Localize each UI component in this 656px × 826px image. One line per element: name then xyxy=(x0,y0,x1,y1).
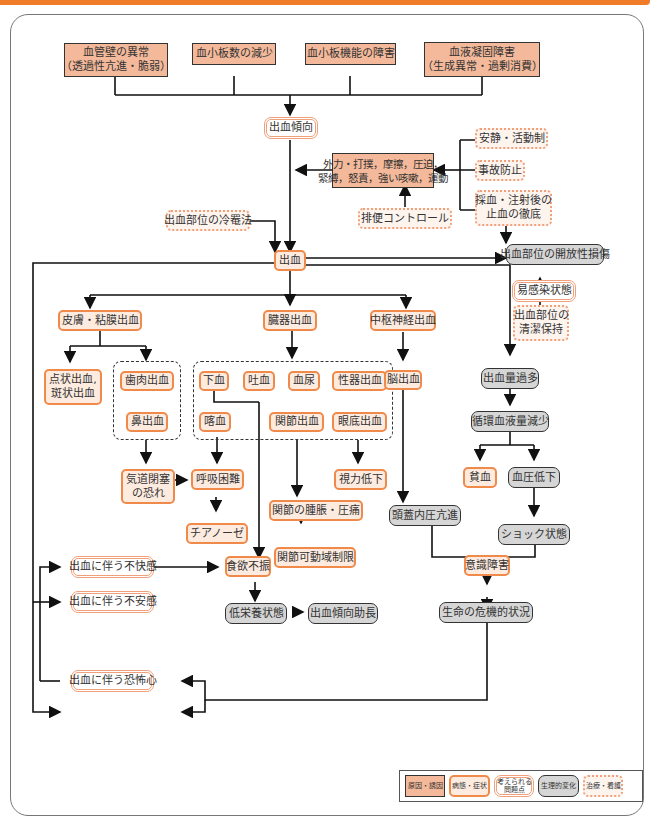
symptom-vision: 視力低下 xyxy=(334,469,387,490)
label: 出血量過多 xyxy=(483,372,538,386)
label: 考えられる 問題点 xyxy=(497,778,532,794)
label: 吐血 xyxy=(248,374,270,388)
care-hemostasis: 採血・注射後の 止血の徹底 xyxy=(475,190,552,226)
care-cleanliness: 出血部位の 清潔保持 xyxy=(513,305,569,341)
symptom-joint-swelling: 関節の腫脹・圧痛 xyxy=(269,500,363,521)
label: 視力低下 xyxy=(339,473,383,487)
label: 眼底出血 xyxy=(338,415,382,429)
label: 治療・看護 xyxy=(586,782,621,790)
symptom-dyspnea: 呼吸困難 xyxy=(191,469,244,490)
physio-bp-drop: 血圧低下 xyxy=(508,467,560,488)
physio-life-critical: 生命の危機的状況 xyxy=(439,602,533,623)
label: 出血傾向助長 xyxy=(310,607,376,621)
label: 循環血液量減少 xyxy=(472,415,549,429)
label: 低栄養状態 xyxy=(229,607,284,621)
legend-cause: 原因・誘因 xyxy=(405,775,445,797)
label: 出血傾向 xyxy=(269,121,313,135)
cause-vessel-wall: 血管壁の異常 （透過性亢進・脆弱） xyxy=(64,43,168,77)
label: 脳出血 xyxy=(387,373,420,387)
label: 呼吸困難 xyxy=(196,473,240,487)
symptom-cns: 中枢神経出血 xyxy=(370,310,436,331)
label: 食欲不振 xyxy=(226,560,270,574)
label: 生命の危機的状況 xyxy=(442,606,530,620)
label: 関節の腫脹・圧痛 xyxy=(272,504,360,518)
legend-symptom: 病態・症状 xyxy=(449,775,490,797)
problem-bleeding-tendency: 出血傾向 xyxy=(264,117,318,139)
care-bowel-control: 排便コントロール xyxy=(358,208,452,229)
symptom-cyanosis: チアノーゼ xyxy=(186,523,248,544)
legend-physio: 生理的変化 xyxy=(538,775,579,797)
label: 下血 xyxy=(203,374,225,388)
label: 皮膚・粘膜出血 xyxy=(62,314,139,328)
problem-fear: 出血に伴う恐怖心 xyxy=(71,670,154,692)
symptom-joint: 関節出血 xyxy=(269,412,324,432)
legend: 原因・誘因 病態・症状 考えられる 問題点 生理的変化 治療・看護 xyxy=(399,770,643,802)
symptom-fundus: 眼底出血 xyxy=(332,412,387,432)
label: 中枢神経出血 xyxy=(370,314,436,328)
label: 関節出血 xyxy=(275,415,319,429)
label: 出血 xyxy=(279,254,301,268)
cause-coagulation: 血液凝固障害 （生成異常・過剰消費） xyxy=(424,42,540,77)
symptom-appetite-loss: 食欲不振 xyxy=(225,556,271,577)
legend-problem: 考えられる 問題点 xyxy=(494,775,534,797)
label: 出血部位の開放性損傷 xyxy=(500,248,610,262)
cause-external-force: 外力・打撲，摩擦，圧迫， 緊縛，怒責，強い咳嗽，運動 xyxy=(332,153,434,188)
symptom-hematemesis: 吐血 xyxy=(243,371,275,391)
symptom-hemoptysis: 喀血 xyxy=(199,412,231,432)
label: 血圧低下 xyxy=(512,471,556,485)
label: 点状出血, 斑状出血 xyxy=(49,373,97,401)
physio-worsen-tendency: 出血傾向助長 xyxy=(308,603,378,624)
label: 喀血 xyxy=(204,415,226,429)
label: 歯肉出血 xyxy=(125,374,169,388)
label: チアノーゼ xyxy=(190,527,244,541)
label: 病態・症状 xyxy=(452,782,487,790)
label: 出血に伴う恐怖心 xyxy=(69,674,157,688)
label: 原因・誘因 xyxy=(408,782,443,790)
problem-infection: 易感染状態 xyxy=(512,280,576,302)
label: 血液凝固障害 （生成異常・過剰消費） xyxy=(422,46,543,74)
cause-platelet-count: 血小板数の減少 xyxy=(192,43,276,65)
care-rest: 安静・活動制 xyxy=(475,128,548,149)
physio-shock: ショック状態 xyxy=(498,524,570,545)
symptom-melena: 下血 xyxy=(199,371,229,391)
label: 採血・注射後の 止血の徹底 xyxy=(475,194,552,222)
legend-care: 治療・看護 xyxy=(583,775,623,797)
symptom-gum: 歯肉出血 xyxy=(120,371,174,391)
symptom-skin-mucosa: 皮膚・粘膜出血 xyxy=(58,310,142,331)
label: 出血に伴う不快感 xyxy=(69,560,157,574)
symptom-bleeding: 出血 xyxy=(274,250,306,271)
symptom-airway: 気道閉塞 の恐れ xyxy=(121,469,175,504)
physio-icp: 頭蓋内圧亢進 xyxy=(389,505,461,526)
symptom-nose: 鼻出血 xyxy=(126,412,168,432)
label: 出血部位の冷罨法 xyxy=(164,214,252,228)
label: 鼻出血 xyxy=(131,415,164,429)
label: 性器出血 xyxy=(338,374,382,388)
label: 臓器出血 xyxy=(268,314,312,328)
symptom-anemia: 貧血 xyxy=(463,467,497,488)
cause-platelet-function: 血小板機能の障害 xyxy=(305,43,396,65)
symptom-genital: 性器出血 xyxy=(332,371,387,391)
label: 事故防止 xyxy=(478,164,522,178)
label: 生理的変化 xyxy=(541,782,576,790)
problem-anxiety: 出血に伴う不安感 xyxy=(71,591,154,613)
label: 血尿 xyxy=(293,374,315,388)
symptom-rom-limit: 関節可動域制限 xyxy=(274,547,356,568)
symptom-organ: 臓器出血 xyxy=(263,310,317,331)
label: 排便コントロール xyxy=(361,212,449,226)
label: 易感染状態 xyxy=(517,284,572,298)
label: 意識障害 xyxy=(465,559,509,573)
label: 頭蓋内圧亢進 xyxy=(392,509,458,523)
symptom-consciousness: 意識障害 xyxy=(464,555,510,576)
label: 血小板数の減少 xyxy=(196,47,273,61)
label: 安静・活動制 xyxy=(479,132,545,146)
label: 血管壁の異常 （透過性亢進・脆弱） xyxy=(61,46,171,74)
physio-excess-bleeding: 出血量過多 xyxy=(481,368,539,389)
label: ショック状態 xyxy=(501,528,567,542)
label: 血小板機能の障害 xyxy=(307,47,395,61)
label: 外力・打撲，摩擦，圧迫， 緊縛，怒責，強い咳嗽，運動 xyxy=(318,157,448,185)
label: 貧血 xyxy=(469,471,491,485)
care-cold-compress: 出血部位の冷罨法 xyxy=(166,210,250,231)
physio-circulating-volume: 循環血液量減少 xyxy=(471,411,549,432)
physio-malnutrition: 低栄養状態 xyxy=(225,603,287,624)
problem-discomfort: 出血に伴う不快感 xyxy=(71,556,154,578)
